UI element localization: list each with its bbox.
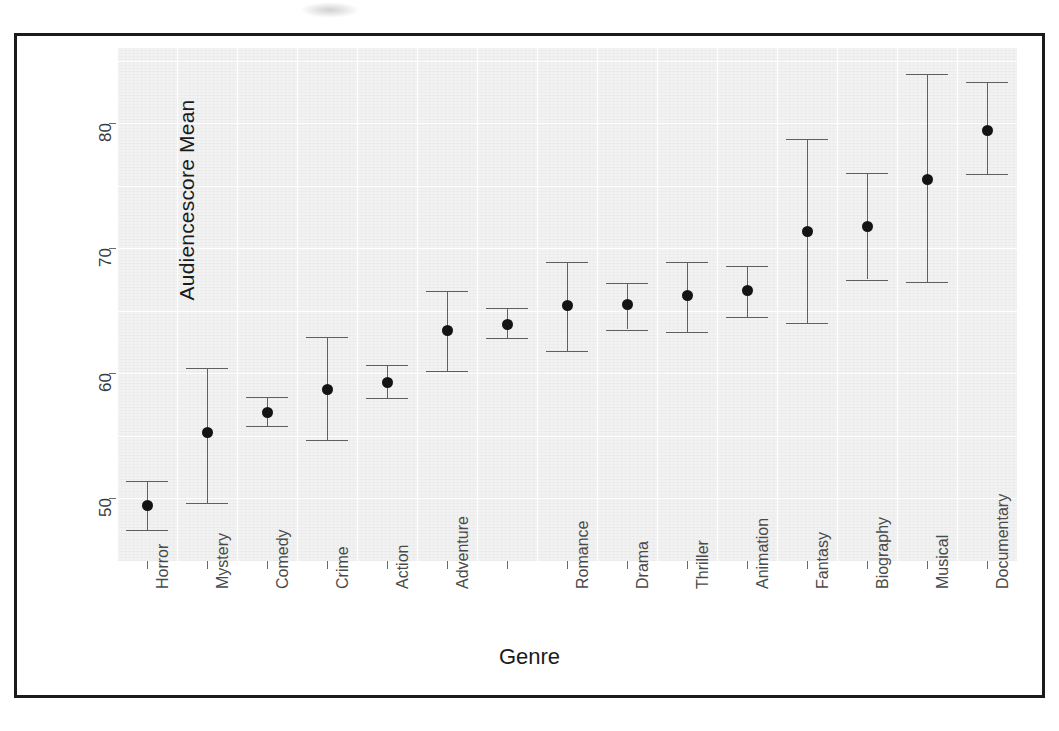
x-tick-label: Horror [154,544,172,589]
gridline-vertical [837,48,838,561]
scan-smudge [300,2,360,18]
x-tick-mark [327,561,328,569]
gridline-vertical [717,48,718,561]
error-bar-cap-upper [906,74,948,75]
error-bar-cap-upper [246,397,288,398]
error-bar-cap-lower [426,371,468,372]
error-bar-cap-lower [486,338,528,339]
gridline-horizontal [117,186,1017,187]
x-tick-mark [147,561,148,569]
x-tick-mark [507,561,508,569]
y-tick-label: 70 [96,248,116,267]
mean-marker [982,125,993,136]
error-bar-cap-lower [246,426,288,427]
x-tick-label: Action [394,545,412,589]
x-tick-mark [267,561,268,569]
gridline-horizontal [117,498,1017,499]
gridline-horizontal [117,248,1017,249]
x-tick-mark [447,561,448,569]
error-bar-cap-upper [546,262,588,263]
gridline-vertical [537,48,538,561]
x-axis-title: Genre [17,644,1042,670]
x-tick-label: Musical [934,535,952,589]
x-tick-mark [747,561,748,569]
gridline-vertical [297,48,298,561]
x-tick-label: Animation [754,518,772,589]
error-bar-cap-upper [726,266,768,267]
gridline-vertical [417,48,418,561]
mean-marker [442,325,453,336]
y-tick-label: 60 [96,373,116,392]
mean-marker [682,290,693,301]
error-bar-cap-lower [846,280,888,281]
error-bar-cap-lower [966,174,1008,175]
error-bar-cap-upper [426,291,468,292]
x-tick-mark [207,561,208,569]
mean-marker [502,319,513,330]
x-tick-mark [927,561,928,569]
mean-marker [142,500,153,511]
x-tick-mark [867,561,868,569]
mean-marker [322,384,333,395]
figure-frame: 50607080 HorrorMysteryComedyCrimeActionA… [14,33,1045,698]
x-tick-label: Comedy [274,529,292,589]
gridline-vertical [657,48,658,561]
scan-artifact [0,0,1059,30]
x-tick-label: Thriller [694,540,712,589]
x-tick-label: Mystery [214,533,232,589]
error-bar-cap-lower [606,330,648,331]
error-bar-cap-lower [186,503,228,504]
error-bar-cap-upper [966,82,1008,83]
x-tick-mark [807,561,808,569]
error-bar-cap-upper [306,337,348,338]
gridline-vertical [957,48,958,561]
error-bar-cap-upper [486,308,528,309]
error-bar-cap-upper [666,262,708,263]
mean-marker [742,285,753,296]
error-bar-cap-lower [306,440,348,441]
mean-marker [262,407,273,418]
error-bar-cap-lower [786,323,828,324]
gridline-vertical [357,48,358,561]
x-tick-mark [987,561,988,569]
error-bar-cap-upper [846,173,888,174]
y-tick-label: 80 [96,123,116,142]
mean-marker [622,299,633,310]
error-bar-cap-lower [726,317,768,318]
plot-area: 50607080 HorrorMysteryComedyCrimeActionA… [117,48,1017,561]
error-bar-cap-upper [186,368,228,369]
error-bar-cap-lower [546,351,588,352]
gridline-horizontal [117,123,1017,124]
mean-marker [862,221,873,232]
error-bar-cap-upper [366,365,408,366]
x-tick-mark [387,561,388,569]
gridline-horizontal [117,373,1017,374]
x-tick-mark [627,561,628,569]
error-bar-cap-upper [606,283,648,284]
error-bar-cap-lower [126,530,168,531]
gridline-vertical [1017,48,1018,561]
mean-marker [802,226,813,237]
gridline-horizontal [117,436,1017,437]
error-bar-cap-lower [366,398,408,399]
gridline-horizontal [117,61,1017,62]
gridline-vertical [237,48,238,561]
error-bar-cap-lower [906,282,948,283]
mean-marker [382,377,393,388]
y-axis-title: Audiencescore Mean [175,70,199,330]
x-tick-mark [567,561,568,569]
mean-marker [562,300,573,311]
x-tick-label: Romance [574,521,592,589]
x-tick-label: Biography [874,517,892,589]
error-bar-cap-lower [666,332,708,333]
error-bar-cap-upper [126,481,168,482]
error-bar-cap-upper [786,139,828,140]
x-tick-label: Fantasy [814,532,832,589]
gridline-vertical [597,48,598,561]
x-tick-mark [687,561,688,569]
gridline-vertical [897,48,898,561]
x-tick-label: Adventure [454,516,472,589]
x-tick-label: Drama [634,541,652,589]
gridline-vertical [777,48,778,561]
y-tick-label: 50 [96,498,116,517]
